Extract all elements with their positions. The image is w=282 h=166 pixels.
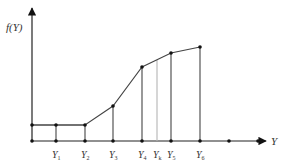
- curve-point-4: [140, 65, 144, 69]
- extra-axis-point: [256, 139, 260, 143]
- axis-point-5: [169, 139, 173, 143]
- tick-label-1: Y1: [52, 149, 61, 161]
- tick-label-4: Y4: [138, 149, 147, 161]
- curve-point-2: [83, 123, 87, 127]
- tick-label-2: Y2: [81, 149, 90, 161]
- y-axis-label: f(Y): [6, 21, 23, 34]
- f-curve: [32, 47, 200, 125]
- tick-label-k: Yk: [153, 149, 162, 161]
- curve-point-6: [198, 45, 202, 49]
- tick-label-5: Y5: [167, 149, 176, 161]
- tick-label-6: Y6: [196, 149, 205, 161]
- axis-point-3: [111, 139, 115, 143]
- extra-axis-point: [227, 139, 231, 143]
- axis-point-1: [54, 139, 58, 143]
- axis-point-2: [83, 139, 87, 143]
- tick-labels: Y1Y2Y3Y4YkY5Y6: [52, 149, 205, 161]
- curve-point-1: [54, 123, 58, 127]
- curve-point: [30, 123, 34, 127]
- curve-point-3: [111, 104, 115, 108]
- data-points: [30, 45, 260, 143]
- x-axis-label: Y: [271, 135, 279, 147]
- axis-point-4: [140, 139, 144, 143]
- axis-point-6: [198, 139, 202, 143]
- curve-point-5: [169, 51, 173, 55]
- step-curve-diagram: f(Y) Y Y1Y2Y3Y4YkY5Y6: [0, 0, 282, 166]
- vertical-lines: [56, 47, 200, 141]
- tick-label-3: Y3: [109, 149, 118, 161]
- origin-point: [30, 139, 34, 143]
